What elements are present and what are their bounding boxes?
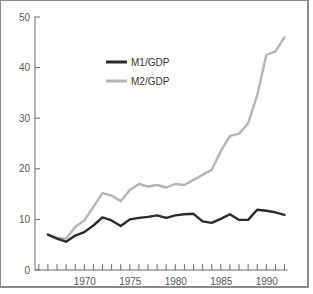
y-tick-label: 30 bbox=[19, 113, 31, 124]
x-tick-label: 1975 bbox=[119, 276, 142, 287]
legend: M1/GDP M2/GDP bbox=[106, 57, 170, 87]
y-tick-label: 10 bbox=[19, 214, 31, 225]
legend-label-m2: M2/GDP bbox=[131, 76, 170, 87]
x-tick-label: 1980 bbox=[165, 276, 188, 287]
y-tick-label: 0 bbox=[24, 265, 30, 276]
line-chart: 0102030405019701975198019851990 M1/GDP M… bbox=[0, 0, 313, 294]
x-tick-label: 1990 bbox=[256, 276, 279, 287]
x-tick-label: 1970 bbox=[74, 276, 97, 287]
y-tick-label: 40 bbox=[19, 62, 31, 73]
y-tick-label: 20 bbox=[19, 163, 31, 174]
x-tick-label: 1985 bbox=[210, 276, 233, 287]
legend-label-m1: M1/GDP bbox=[131, 57, 170, 68]
series-line-m1-gdp bbox=[48, 210, 285, 242]
axes: 0102030405019701975198019851990 bbox=[19, 12, 288, 288]
y-tick-label: 50 bbox=[19, 12, 31, 23]
